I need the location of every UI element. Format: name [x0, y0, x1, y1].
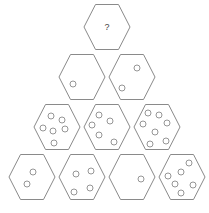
hexagon-cell	[109, 55, 155, 100]
hexagon-cell	[159, 155, 205, 200]
circle-dot-icon	[186, 160, 192, 166]
circle-dot-icon	[165, 173, 171, 179]
circle-dot-icon	[30, 169, 36, 175]
hex-row-3	[34, 105, 180, 150]
hexagon-cell	[59, 155, 105, 200]
hexagon-cell	[84, 105, 130, 150]
circle-dot-icon	[111, 139, 117, 145]
circle-dot-icon	[156, 112, 162, 118]
circle-dot-icon	[119, 85, 125, 91]
hexagon-outline	[59, 155, 105, 200]
hexagon-cell	[9, 155, 55, 200]
circle-dot-icon	[24, 181, 30, 187]
circle-dot-icon	[107, 118, 113, 124]
circle-dot-icon	[73, 171, 79, 177]
hex-row-4	[9, 155, 205, 200]
hexagon-cell	[34, 105, 80, 150]
circle-dot-icon	[147, 141, 153, 147]
circle-dot-icon	[172, 181, 178, 187]
hexagon-outline	[134, 105, 180, 150]
circle-dot-icon	[89, 122, 95, 128]
circle-dot-icon	[178, 190, 184, 196]
circle-dot-icon	[134, 65, 140, 71]
circle-dot-icon	[163, 138, 169, 144]
hexagon-cell	[59, 55, 105, 100]
circle-dot-icon	[152, 129, 158, 135]
circle-dot-icon	[88, 168, 94, 174]
circle-dot-icon	[51, 140, 57, 146]
hexagon-outline	[9, 155, 55, 200]
circle-dot-icon	[50, 128, 56, 134]
circle-dot-icon	[40, 125, 46, 131]
circle-dot-icon	[145, 110, 151, 116]
unknown-hexagon: ?	[84, 5, 130, 50]
hexagon-cell	[134, 105, 180, 150]
circle-dot-icon	[190, 182, 196, 188]
circle-dot-icon	[96, 112, 102, 118]
hexagon-cell	[109, 155, 155, 200]
hexagon-outline	[109, 55, 155, 100]
circle-dot-icon	[59, 117, 65, 123]
hexagon-pyramid-puzzle: ?	[0, 0, 209, 213]
circle-dot-icon	[140, 121, 146, 127]
circle-dot-icon	[71, 189, 77, 195]
circle-dot-icon	[87, 185, 93, 191]
hexagon-outline	[109, 155, 155, 200]
circle-dot-icon	[96, 132, 102, 138]
circle-dot-icon	[70, 81, 76, 87]
circle-dot-icon	[178, 169, 184, 175]
hex-row-1: ?	[84, 5, 130, 50]
hexagon-outline	[59, 55, 105, 100]
hex-row-2	[59, 55, 155, 100]
circle-dot-icon	[48, 113, 54, 119]
circle-dot-icon	[138, 176, 144, 182]
circle-dot-icon	[164, 120, 170, 126]
circle-dot-icon	[62, 126, 68, 132]
question-mark: ?	[104, 22, 109, 32]
